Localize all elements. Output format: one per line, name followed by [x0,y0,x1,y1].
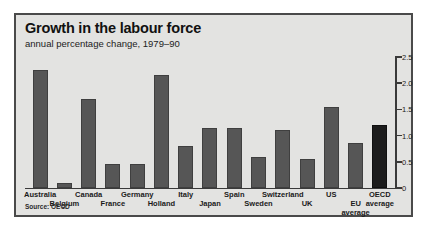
bar-australia [33,70,48,188]
x-axis-baseline [25,188,401,190]
bar-oecd-average [372,125,387,188]
y-tick-mark [395,161,402,163]
bar-italy [178,146,193,188]
y-tick-label: 1.0 [402,131,412,140]
x-label-line: Sweden [244,200,272,209]
chart-title: Growth in the labour force [25,20,201,36]
y-axis-line [395,57,397,189]
x-label-canada: Canada [75,191,102,200]
bar-slot [149,57,173,188]
x-label-oecd-average: OECDaverage [366,191,394,208]
bar-slot [77,57,101,188]
bar-slot [343,57,367,188]
x-label-spain: Spain [224,191,244,200]
bar-slot [28,57,52,188]
x-label-line: US [326,191,336,200]
x-label-switzerland: Switzerland [262,191,304,200]
x-label-line: Italy [178,191,193,200]
x-label-us: US [326,191,336,200]
y-tick-label: 0.5 [402,157,412,166]
bar-canada [81,99,96,188]
x-label-line: average [341,209,369,218]
x-label-line: Japan [199,200,221,209]
bar-slot [295,57,319,188]
source-note: Source: OECD [25,203,70,210]
x-label-sweden: Sweden [244,200,272,209]
bar-slot [125,57,149,188]
bar-uk [300,159,315,188]
x-label-line: Holland [148,200,176,209]
bar-slot [198,57,222,188]
chart-panel: Growth in the labour force annual percen… [14,13,413,217]
y-tick-label: 2.5 [402,53,412,62]
x-label-line: Canada [75,191,102,200]
chart-subtitle: annual percentage change, 1979–90 [25,38,180,49]
bar-eu-average [348,143,363,188]
x-label-italy: Italy [178,191,193,200]
bar-slot [101,57,125,188]
bar-slot [271,57,295,188]
bar-slot [368,57,392,188]
y-tick-label: 1.5 [402,105,412,114]
bar-slot [319,57,343,188]
x-label-uk: UK [302,200,313,209]
bar-france [105,164,120,188]
y-tick-label: 0 [402,184,406,193]
bar-germany [130,164,145,188]
plot-area [25,57,395,188]
x-label-line: UK [302,200,313,209]
bar-slot [246,57,270,188]
x-label-line: average [366,200,394,209]
x-axis-labels: AustraliaBelgiumCanadaFranceGermanyHolla… [25,191,395,217]
bar-switzerland [275,130,290,188]
bar-slot [174,57,198,188]
x-label-line: France [101,200,126,209]
bar-us [324,107,339,188]
x-label-line: Spain [224,191,244,200]
bar-series [25,57,395,188]
bar-japan [202,128,217,188]
bar-holland [154,75,169,188]
y-tick-mark [395,109,402,111]
x-label-line: Switzerland [262,191,304,200]
y-tick-mark [395,56,402,58]
y-tick-mark [395,82,402,84]
y-tick-label: 2.0 [402,79,412,88]
bar-sweden [251,157,266,188]
y-tick-mark [395,187,402,189]
bar-slot [52,57,76,188]
x-label-japan: Japan [199,200,221,209]
x-label-holland: Holland [148,200,176,209]
bar-spain [227,128,242,188]
y-tick-mark [395,135,402,137]
x-label-france: France [101,200,126,209]
bar-slot [222,57,246,188]
